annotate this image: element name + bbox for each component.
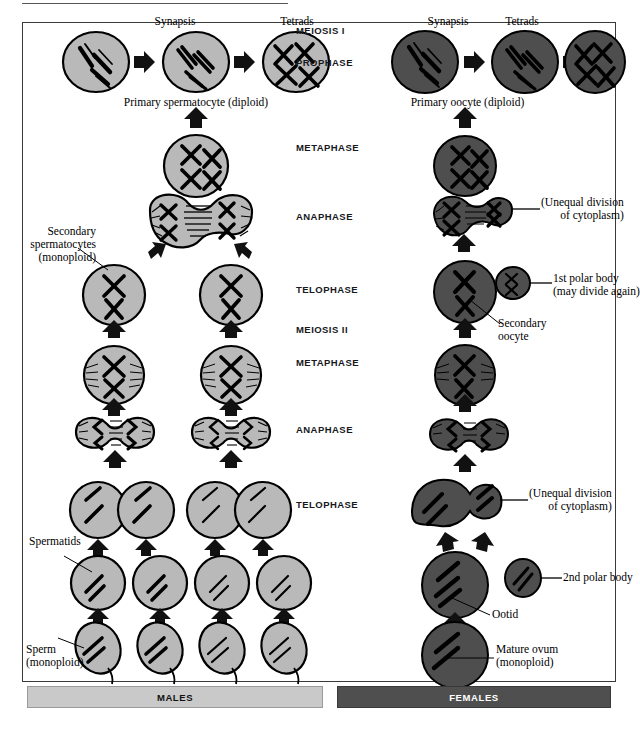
phase-label-prophase-1: PROPHASE xyxy=(296,58,353,69)
secondary-oocyte-label: Secondary oocyte xyxy=(498,317,547,343)
unequal-division-2-line-1: (Unequal division xyxy=(529,487,612,500)
sperm-label-line-2: (monoploid) xyxy=(26,656,84,669)
mature-ovum-label: Mature ovum (monoploid) xyxy=(496,643,558,669)
mature-ovum-line-1: Mature ovum xyxy=(496,643,558,656)
primary-spermatocyte-caption: Primary spermatocyte (diploid) xyxy=(96,96,296,109)
secondary-oocyte-line-2: oocyte xyxy=(498,330,547,343)
phase-label-metaphase-2: METAPHASE xyxy=(296,358,359,369)
spermatids-label: Spermatids xyxy=(29,535,81,548)
males-banner: MALES xyxy=(27,686,323,708)
sperm-label-line-1: Sperm xyxy=(26,643,84,656)
unequal-division-2-line-2: of cytoplasm) xyxy=(529,500,612,513)
unequal-division-1-line-2: of cytoplasm) xyxy=(541,209,624,222)
sperm-label: Sperm (monoploid) xyxy=(26,643,84,669)
meiosis-figure: MEIOSIS I PROPHASE METAPHASE ANAPHASE TE… xyxy=(0,0,640,731)
unequal-division-1-label: (Unequal division of cytoplasm) xyxy=(541,196,624,222)
phase-label-telophase-2: TELOPHASE xyxy=(296,500,358,511)
second-polar-body-label: 2nd polar body xyxy=(563,571,633,584)
phase-label-metaphase-1: METAPHASE xyxy=(296,143,359,154)
male-synapsis-label: Synapsis xyxy=(145,15,205,28)
mature-ovum-line-2: (monoploid) xyxy=(496,656,558,669)
first-polar-body-line-1: 1st polar body xyxy=(553,272,640,285)
secondary-spermatocytes-line-1: Secondary xyxy=(0,225,96,238)
secondary-spermatocytes-line-3: (monoploid) xyxy=(0,251,96,264)
phase-label-telophase-1: TELOPHASE xyxy=(296,285,358,296)
first-polar-body-label: 1st polar body (may divide again) xyxy=(553,272,640,298)
male-tetrads-label: Tetrads xyxy=(268,15,326,28)
ootid-label: Ootid xyxy=(492,608,518,621)
secondary-spermatocytes-line-2: spermatocytes xyxy=(0,238,96,251)
females-banner: FEMALES xyxy=(337,686,611,708)
phase-label-anaphase-1: ANAPHASE xyxy=(296,212,353,223)
primary-oocyte-caption: Primary oocyte (diploid) xyxy=(380,96,555,109)
female-synapsis-label: Synapsis xyxy=(418,15,478,28)
secondary-oocyte-line-1: Secondary xyxy=(498,317,547,330)
female-tetrads-label: Tetrads xyxy=(493,15,551,28)
phase-label-anaphase-2: ANAPHASE xyxy=(296,425,353,436)
unequal-division-2-label: (Unequal division of cytoplasm) xyxy=(529,487,612,513)
unequal-division-1-line-1: (Unequal division xyxy=(541,196,624,209)
first-polar-body-line-2: (may divide again) xyxy=(553,285,640,298)
secondary-spermatocytes-label: Secondary spermatocytes (monoploid) xyxy=(0,225,96,264)
phase-label-meiosis-2: MEIOSIS II xyxy=(296,325,348,336)
